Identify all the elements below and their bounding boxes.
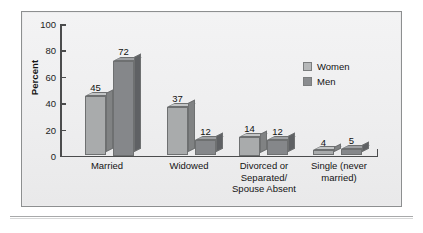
x-axis-end-cap	[377, 149, 379, 156]
bar-value-single-men: 5	[334, 136, 369, 146]
bar-married-women	[85, 96, 106, 155]
y-tick-label-20: 20	[30, 126, 56, 136]
bar-divorced-women	[239, 137, 260, 156]
bar-front-facet	[113, 61, 134, 156]
y-tick-label-60: 60	[30, 73, 56, 83]
women-swatch-icon	[303, 62, 312, 71]
bar-front-facet	[341, 149, 362, 156]
y-tick-label-100: 100	[30, 20, 56, 30]
y-tick-100	[60, 24, 66, 26]
legend-label-women: Women	[317, 62, 350, 72]
y-tick-label-40: 40	[30, 99, 56, 109]
bar-front-facet	[267, 140, 288, 156]
bar-front-facet	[85, 96, 106, 155]
bar-widowed-men	[195, 140, 216, 156]
y-axis-line	[60, 24, 62, 156]
bar-divorced-men	[267, 140, 288, 156]
category-label-single: Single (never married)	[302, 160, 376, 183]
bar-front-facet	[313, 150, 334, 155]
category-label-married: Married	[72, 160, 142, 172]
y-tick-60	[60, 77, 66, 79]
bar-front-facet	[195, 140, 216, 156]
bar-front-facet	[239, 137, 260, 156]
legend: Women Men	[303, 59, 350, 89]
bar-value-married-men: 72	[106, 47, 141, 57]
bar-side-facet	[134, 53, 141, 152]
bar-widowed-women	[167, 107, 188, 156]
bar-value-widowed-women: 37	[160, 94, 195, 104]
x-axis-line	[60, 156, 378, 158]
legend-label-men: Men	[317, 77, 335, 87]
footer-divider-shadow	[10, 218, 413, 219]
y-tick-0	[60, 156, 66, 158]
bar-value-widowed-men: 12	[188, 127, 223, 137]
bar-single-men	[341, 149, 362, 156]
bar-front-facet	[167, 107, 188, 156]
bar-value-married-women: 45	[78, 83, 113, 93]
bar-side-facet	[106, 89, 113, 152]
category-label-widowed: Widowed	[154, 160, 224, 172]
legend-item-men: Men	[303, 74, 350, 89]
y-tick-40	[60, 103, 66, 105]
bar-value-divorced-men: 12	[260, 127, 295, 137]
y-tick-label-0: 0	[30, 152, 56, 162]
men-swatch-icon	[303, 77, 312, 86]
footer-divider	[10, 216, 413, 217]
y-tick-20	[60, 130, 66, 132]
bar-chart-figure: Percent 100 80 60 40 20 0 45 72 37 12	[0, 0, 423, 233]
category-label-divorced: Divorced or Separated/ Spouse Absent	[226, 160, 302, 195]
y-tick-80	[60, 50, 66, 52]
legend-item-women: Women	[303, 59, 350, 74]
y-tick-label-80: 80	[30, 46, 56, 56]
bar-married-men	[113, 61, 134, 156]
bar-single-women	[313, 150, 334, 155]
